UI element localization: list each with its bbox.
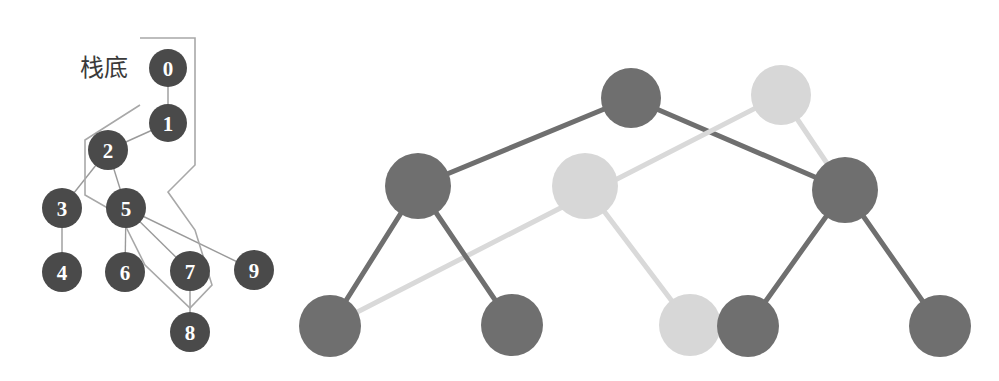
tree-node-m0[interactable] [385,153,451,219]
graph-node-3[interactable]: 3 [42,188,82,228]
graph-node-label-2: 2 [103,139,114,163]
tree-node-l1[interactable] [481,294,543,356]
graph-node-label-8: 8 [185,321,196,345]
tree-node-m1[interactable] [552,153,618,219]
diagram-svg: 0123456789 栈底 [0,0,999,381]
graph-node-8[interactable]: 8 [170,312,210,352]
graph-node-9[interactable]: 9 [234,250,274,290]
graph-node-5[interactable]: 5 [106,188,146,228]
tree-node-l3[interactable] [717,295,779,357]
tree-node-l4[interactable] [909,295,971,357]
tree-node-l0[interactable] [299,295,361,357]
tree-node-m2[interactable] [812,157,878,223]
graph-node-4[interactable]: 4 [42,252,82,292]
graph-node-7[interactable]: 7 [170,251,210,291]
graph-node-label-0: 0 [163,57,174,81]
graph-node-label-1: 1 [163,112,174,136]
graph-node-label-9: 9 [249,259,260,283]
graph-node-1[interactable]: 1 [149,104,187,142]
graph-node-label-7: 7 [185,260,196,284]
figure-canvas: 0123456789 栈底 [0,0,999,381]
tree-node-r1[interactable] [751,65,811,125]
tree-node-group [299,65,971,357]
graph-node-6[interactable]: 6 [105,252,145,292]
graph-node-label-3: 3 [57,197,68,221]
graph-node-0[interactable]: 0 [149,49,187,87]
graph-node-group: 0123456789 [42,49,274,352]
stack-bottom-annotation: 栈底 [80,54,128,82]
graph-node-label-5: 5 [121,197,132,221]
graph-node-2[interactable]: 2 [88,130,128,170]
tree-node-l2[interactable] [659,294,721,356]
tree-node-r0[interactable] [601,68,661,128]
graph-node-label-4: 4 [57,261,68,285]
graph-node-label-6: 6 [120,261,131,285]
